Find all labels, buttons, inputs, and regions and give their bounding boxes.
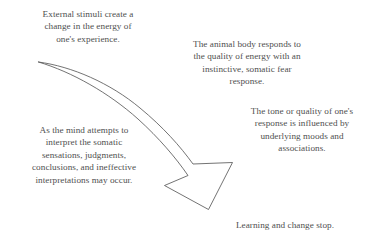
text-block-mind-attempts: As the mind attempts to interpret the so…: [4, 124, 164, 186]
text-block-external-stimuli: External stimuli create a change in the …: [8, 8, 168, 45]
diagram-canvas: External stimuli create a change in the …: [0, 0, 388, 237]
text-block-tone-quality: The tone or quality of one's response is…: [222, 105, 382, 155]
text-block-animal-body: The animal body responds to the quality …: [152, 38, 342, 88]
text-block-learning-stops: Learning and change stop.: [190, 219, 380, 231]
